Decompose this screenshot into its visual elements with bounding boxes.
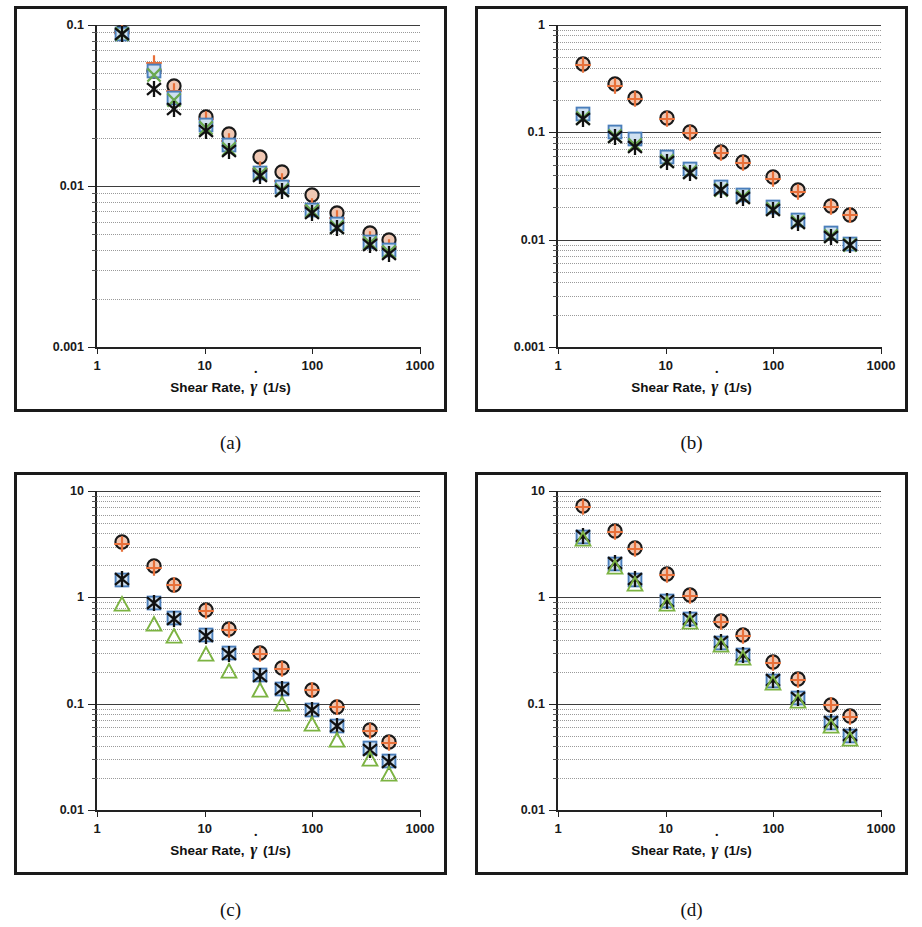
y-tick-label: 0.1 xyxy=(528,125,545,139)
gridline-minor xyxy=(97,614,420,615)
data-point-plus xyxy=(820,694,842,716)
data-point-star xyxy=(710,179,732,201)
gridline-minor xyxy=(558,515,881,516)
data-point-cross xyxy=(359,232,381,254)
data-point-plus xyxy=(679,585,701,607)
panel-b-x-axis-title: Shear Rate, γ (1/s) xyxy=(478,377,905,397)
data-point-square xyxy=(359,737,381,759)
y-tick-minor xyxy=(553,614,558,615)
data-point-star xyxy=(163,608,185,630)
y-tick-minor xyxy=(553,640,558,641)
data-point-circle xyxy=(271,161,293,183)
data-point-star xyxy=(787,212,809,234)
gridline-minor xyxy=(558,156,881,157)
data-point-square xyxy=(326,213,348,235)
y-tick-minor xyxy=(553,165,558,166)
y-tick-minor xyxy=(553,736,558,737)
data-point-star xyxy=(218,140,240,162)
data-point-circle xyxy=(710,141,732,163)
gridline-minor xyxy=(558,165,881,166)
gamma-dot-symbol: γ xyxy=(709,840,720,859)
data-point-plus xyxy=(732,625,754,647)
y-tick-major xyxy=(88,597,97,598)
data-point-plus xyxy=(604,521,626,543)
gridline-minor xyxy=(558,533,881,534)
data-point-plus xyxy=(301,679,323,701)
data-point-star xyxy=(732,187,754,209)
y-tick-minor xyxy=(92,736,97,737)
data-point-square xyxy=(249,162,271,184)
data-point-square xyxy=(787,209,809,231)
gridline-minor xyxy=(558,42,881,43)
y-tick-label: 0.01 xyxy=(521,803,545,817)
data-point-square xyxy=(301,699,323,721)
gridline-minor xyxy=(558,614,881,615)
panel-d-plot-inner xyxy=(558,491,881,810)
gridline-minor xyxy=(558,714,881,715)
data-point-circle xyxy=(656,563,678,585)
gridline-minor xyxy=(97,602,420,603)
data-point-plus xyxy=(732,152,754,174)
y-tick-label: 1 xyxy=(77,590,84,604)
data-point-star xyxy=(271,180,293,202)
gridline-minor xyxy=(97,736,420,737)
data-point-star xyxy=(787,687,809,709)
data-point-plus xyxy=(249,158,271,180)
y-tick-minor xyxy=(553,35,558,36)
gridline-minor xyxy=(97,138,420,139)
data-point-star xyxy=(572,108,594,130)
data-point-plus xyxy=(218,130,240,152)
x-tick xyxy=(97,810,98,817)
data-point-star xyxy=(679,608,701,630)
y-tick-minor xyxy=(92,759,97,760)
gridline-minor xyxy=(97,621,420,622)
x-tick xyxy=(312,810,313,817)
x-tick xyxy=(881,810,882,817)
data-point-plus xyxy=(163,80,185,102)
x-tick xyxy=(312,347,313,354)
data-point-square xyxy=(732,184,754,206)
y-tick-major xyxy=(549,132,558,133)
y-tick-label: 0.1 xyxy=(67,18,84,32)
y-tick-minor xyxy=(553,263,558,264)
y-tick-minor xyxy=(553,156,558,157)
panel-b-plot-inner xyxy=(558,25,881,347)
data-point-star xyxy=(359,234,381,256)
y-tick-minor xyxy=(553,565,558,566)
data-point-star xyxy=(378,751,400,773)
y-tick-minor xyxy=(553,602,558,603)
data-point-star xyxy=(572,525,594,547)
data-point-circle xyxy=(218,123,240,145)
data-point-star xyxy=(111,25,133,45)
data-point-cross xyxy=(143,64,165,86)
y-tick-major xyxy=(88,491,97,492)
y-tick-minor xyxy=(92,193,97,194)
gridline-minor xyxy=(558,759,881,760)
data-point-square xyxy=(111,25,133,45)
y-tick-minor xyxy=(553,42,558,43)
y-tick-minor xyxy=(92,746,97,747)
gridline-minor xyxy=(558,746,881,747)
y-tick-minor xyxy=(92,73,97,74)
gridline-minor xyxy=(97,270,420,271)
data-point-circle xyxy=(624,87,646,109)
data-point-square xyxy=(820,712,842,734)
gridline-minor xyxy=(97,759,420,760)
y-tick-major xyxy=(549,25,558,26)
y-tick-minor xyxy=(92,61,97,62)
data-point-circle xyxy=(163,75,185,97)
gridline-major xyxy=(97,186,420,187)
data-point-star xyxy=(762,199,784,221)
gridline-minor xyxy=(97,778,420,779)
gridline-major xyxy=(558,240,881,241)
data-point-square xyxy=(163,607,185,629)
y-tick-minor xyxy=(92,50,97,51)
data-point-triangle xyxy=(732,647,754,669)
data-point-plus xyxy=(378,236,400,258)
gridline-minor xyxy=(558,602,881,603)
y-tick-minor xyxy=(553,746,558,747)
data-point-plus xyxy=(143,52,165,74)
data-point-circle xyxy=(762,166,784,188)
gridline-minor xyxy=(97,250,420,251)
y-tick-minor xyxy=(553,547,558,548)
